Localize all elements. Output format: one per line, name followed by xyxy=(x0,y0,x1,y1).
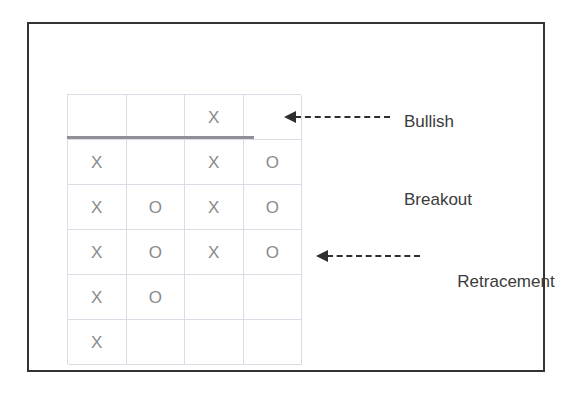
pf-mark-o: O xyxy=(127,185,186,230)
pf-cell-empty xyxy=(185,275,244,320)
pf-cell-empty xyxy=(127,320,186,365)
dashed-line xyxy=(295,116,390,118)
pf-cell-empty xyxy=(244,275,303,320)
pf-mark-x: X xyxy=(185,140,244,185)
pf-cell-empty xyxy=(68,95,127,140)
resistance-line xyxy=(67,136,254,139)
breakout-label: Bullish Breakout xyxy=(404,57,472,265)
breakout-label-line-2: Breakout xyxy=(404,187,472,213)
pf-mark-x: X xyxy=(68,275,127,320)
pf-mark-x: X xyxy=(68,140,127,185)
retracement-label-line-1: Retracement xyxy=(457,272,554,291)
pf-mark-x: X xyxy=(185,95,244,140)
pf-mark-o: O xyxy=(244,185,303,230)
pf-mark-x: X xyxy=(68,185,127,230)
breakout-annotation-arrow xyxy=(284,110,390,124)
pf-mark-x: X xyxy=(185,230,244,275)
pf-mark-x: X xyxy=(68,320,127,365)
chart-frame: XXXOXOXOXOXOXOX Bullish Breakout Retrace… xyxy=(27,22,545,372)
pf-mark-x: X xyxy=(68,230,127,275)
pf-mark-o: O xyxy=(244,230,303,275)
pf-mark-o: O xyxy=(127,230,186,275)
pf-cell-empty xyxy=(244,320,303,365)
pf-cell-empty xyxy=(127,95,186,140)
pf-mark-o: O xyxy=(244,140,303,185)
pf-mark-x: X xyxy=(185,185,244,230)
point-and-figure-figure: XXXOXOXOXOXOXOX Bullish Breakout Retrace… xyxy=(0,0,565,397)
point-figure-grid: XXXOXOXOXOXOXOX xyxy=(67,94,301,364)
pf-mark-o: O xyxy=(127,275,186,320)
pf-cell-empty xyxy=(185,320,244,365)
retracement-label: Retracement xyxy=(429,243,555,321)
breakout-label-line-1: Bullish xyxy=(404,109,472,135)
pf-cell-empty xyxy=(127,140,186,185)
